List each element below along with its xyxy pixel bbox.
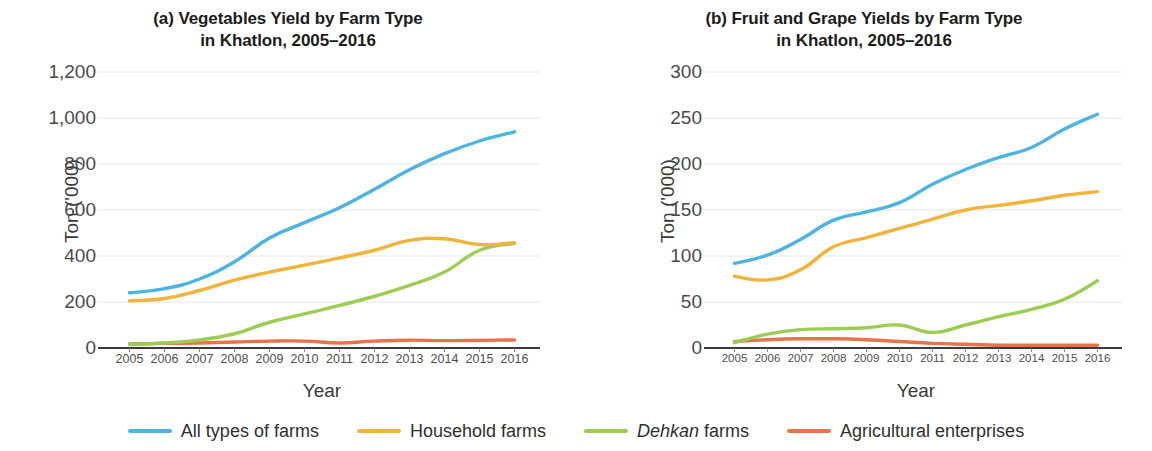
x-tick-label: 2005 — [718, 352, 751, 376]
panel-a-plot-wrap: Ton ('000) 1,2001,0008006004002000 20052… — [0, 72, 576, 372]
x-tick-label: 2014 — [427, 352, 462, 376]
legend-item-all_types[interactable]: All types of farms — [128, 421, 319, 442]
panel-a-x-axis-label: Year — [112, 380, 532, 402]
panel-b-lines-svg — [718, 72, 1114, 348]
x-tick-label: 2013 — [392, 352, 427, 376]
panel-a-lines-svg — [112, 72, 532, 348]
legend-item-dehkan[interactable]: Dehkan farms — [584, 421, 749, 442]
legend-swatch-all_types — [128, 429, 172, 433]
figure-root: (a) Vegetables Yield by Farm Type in Kha… — [0, 0, 1152, 451]
y-tick-label: 250 — [576, 107, 702, 129]
legend-item-household[interactable]: Household farms — [357, 421, 546, 442]
x-tick-label: 2016 — [1081, 352, 1114, 376]
panels-container: (a) Vegetables Yield by Farm Type in Kha… — [0, 0, 1152, 410]
panel-b-plot-area — [718, 72, 1114, 348]
y-tick-label: 800 — [0, 153, 96, 175]
y-tick-label: 100 — [576, 245, 702, 267]
series-line-all-types-of-farms — [735, 114, 1098, 263]
x-tick-label: 2015 — [462, 352, 497, 376]
x-tick-label: 2013 — [982, 352, 1015, 376]
legend-item-enterprises[interactable]: Agricultural enterprises — [787, 421, 1024, 442]
legend-swatch-enterprises — [787, 429, 831, 433]
panel-a-title: (a) Vegetables Yield by Farm Type in Kha… — [0, 0, 576, 53]
chart-panel-a: (a) Vegetables Yield by Farm Type in Kha… — [0, 0, 576, 410]
x-tick-label: 2015 — [1048, 352, 1081, 376]
panel-b-title-line2: in Khatlon, 2005–2016 — [576, 30, 1152, 52]
y-tick-label: 200 — [0, 291, 96, 313]
x-tick-label: 2006 — [751, 352, 784, 376]
legend-swatch-household — [357, 429, 401, 433]
x-tick-label: 2010 — [883, 352, 916, 376]
legend-label-household: Household farms — [410, 421, 546, 442]
panel-a-y-ticks: 1,2001,0008006004002000 — [0, 72, 96, 372]
x-tick-label: 2007 — [784, 352, 817, 376]
y-tick-label: 0 — [576, 337, 702, 359]
y-tick-label: 200 — [576, 153, 702, 175]
panel-b-x-axis-label: Year — [718, 380, 1114, 402]
legend-label-all_types: All types of farms — [181, 421, 319, 442]
y-tick-label: 400 — [0, 245, 96, 267]
series-line-household-farms — [735, 192, 1098, 281]
panel-a-title-line1: (a) Vegetables Yield by Farm Type — [153, 9, 422, 28]
panel-b-x-ticks: 2005200620072008200920102011201220132014… — [718, 352, 1114, 376]
panel-a-x-ticks: 2005200620072008200920102011201220132014… — [112, 352, 532, 376]
panel-a-title-line2: in Khatlon, 2005–2016 — [0, 30, 576, 52]
x-tick-label: 2009 — [850, 352, 883, 376]
x-tick-label: 2006 — [147, 352, 182, 376]
legend-label-dehkan: Dehkan farms — [637, 421, 749, 442]
panel-a-plot-area — [112, 72, 532, 348]
series-line-dehkan-farms — [735, 281, 1098, 343]
x-tick-label: 2005 — [112, 352, 147, 376]
chart-legend: All types of farmsHousehold farmsDehkan … — [0, 414, 1152, 448]
legend-label-emphasis: Dehkan — [637, 421, 699, 441]
y-tick-label: 150 — [576, 199, 702, 221]
y-tick-label: 1,000 — [0, 107, 96, 129]
y-tick-label: 300 — [576, 61, 702, 83]
x-tick-label: 2007 — [182, 352, 217, 376]
y-tick-label: 50 — [576, 291, 702, 313]
panel-b-title: (b) Fruit and Grape Yields by Farm Type … — [576, 0, 1152, 53]
x-tick-label: 2010 — [287, 352, 322, 376]
x-tick-label: 2012 — [949, 352, 982, 376]
y-tick-label: 0 — [0, 337, 96, 359]
series-line-agricultural-enterprises — [735, 339, 1098, 346]
legend-label-enterprises: Agricultural enterprises — [840, 421, 1024, 442]
series-line-all-types-of-farms — [130, 132, 515, 293]
panel-b-title-line1: (b) Fruit and Grape Yields by Farm Type — [706, 9, 1023, 28]
x-tick-label: 2011 — [322, 352, 357, 376]
x-tick-label: 2009 — [252, 352, 287, 376]
y-tick-label: 1,200 — [0, 61, 96, 83]
x-tick-label: 2008 — [217, 352, 252, 376]
y-tick-label: 600 — [0, 199, 96, 221]
x-tick-label: 2012 — [357, 352, 392, 376]
panel-b-plot-wrap: Ton ('000) 300250200150100500 2005200620… — [576, 72, 1152, 372]
x-tick-label: 2008 — [817, 352, 850, 376]
legend-swatch-dehkan — [584, 429, 628, 433]
panel-b-y-ticks: 300250200150100500 — [576, 72, 702, 372]
x-tick-label: 2016 — [497, 352, 532, 376]
chart-panel-b: (b) Fruit and Grape Yields by Farm Type … — [576, 0, 1152, 410]
x-tick-label: 2011 — [916, 352, 949, 376]
x-tick-label: 2014 — [1015, 352, 1048, 376]
series-line-household-farms — [130, 238, 515, 301]
